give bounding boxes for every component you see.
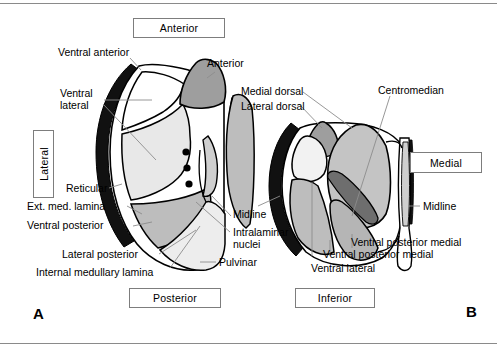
orientation-box-posterior: Posterior bbox=[129, 288, 221, 308]
orientation-label-inferior: Inferior bbox=[318, 292, 352, 304]
panel-b-midline-inner bbox=[402, 142, 410, 226]
label-ventral-posterior: Ventral posterior bbox=[27, 219, 103, 231]
panel-a-intralaminar-dot-1 bbox=[182, 148, 189, 155]
orientation-box-lateral: Lateral bbox=[33, 130, 54, 198]
label-ventral-anterior: Ventral anterior bbox=[58, 46, 129, 58]
label-lateral-posterior: Lateral posterior bbox=[62, 248, 138, 260]
label-ext-med-lamina: Ext. med. lamina bbox=[27, 200, 105, 212]
orientation-box-medial: Medial bbox=[410, 152, 482, 173]
label-midline-b: Midline bbox=[423, 200, 456, 212]
orientation-label-medial: Medial bbox=[430, 157, 462, 169]
label-ventral-posterior-medial-2: Ventral posterior medial bbox=[323, 248, 433, 260]
label-reticular: Reticular bbox=[66, 182, 107, 194]
orientation-label-lateral: Lateral bbox=[38, 147, 50, 181]
figure-thalamic-nuclei: Anterior Posterior Lateral Medial Inferi… bbox=[0, 0, 497, 346]
label-centromedian: Centromedian bbox=[378, 84, 444, 96]
panel-letter-a: A bbox=[33, 305, 44, 322]
label-ventral-lateral-b: Ventral lateral bbox=[311, 262, 375, 274]
panel-a-intralaminar-dot-3 bbox=[185, 180, 192, 187]
label-lateral-dorsal: Lateral dorsal bbox=[241, 100, 305, 112]
label-medial-dorsal: Medial dorsal bbox=[241, 85, 303, 97]
label-intralaminar-nuclei: Intralaminar nuclei bbox=[233, 226, 288, 250]
orientation-box-inferior: Inferior bbox=[295, 288, 375, 308]
label-ventral-posterior-medial-1: Ventral posterior medial bbox=[351, 236, 461, 248]
label-ventral-lateral: Ventral lateral bbox=[60, 87, 93, 111]
panel-letter-b: B bbox=[466, 303, 477, 320]
label-anterior-nucleus: Anterior bbox=[207, 57, 244, 69]
label-internal-medullary-lamina: Internal medullary lamina bbox=[36, 266, 153, 278]
orientation-label-posterior: Posterior bbox=[153, 292, 197, 304]
orientation-label-anterior: Anterior bbox=[160, 22, 198, 34]
panel-a-artwork bbox=[96, 58, 254, 270]
label-pulvinar: Pulvinar bbox=[219, 256, 257, 268]
label-midline-a: Midline bbox=[233, 208, 266, 220]
panel-a-intralaminar-dot-2 bbox=[183, 164, 190, 171]
orientation-box-anterior: Anterior bbox=[133, 18, 225, 38]
